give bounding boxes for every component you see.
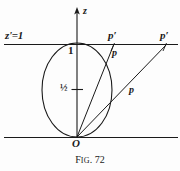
figure-72: z z'=1 1 ½ p′ p′ p p O FIG. 72 <box>0 0 180 171</box>
figure-caption: FIG. 72 <box>0 154 180 165</box>
ray-inner <box>77 44 114 137</box>
p-prime-inner-label: p′ <box>108 30 117 41</box>
unit-tick-label: 1 <box>68 45 74 56</box>
figure-drawing <box>0 0 180 171</box>
z-prime-equals-one-label: z'=1 <box>5 30 23 41</box>
p-inner-label: p <box>112 48 117 58</box>
p-outer-label: p <box>129 85 134 95</box>
z-axis-label: z <box>83 6 87 16</box>
half-tick-label: ½ <box>60 83 68 93</box>
ray-outer <box>77 44 167 137</box>
caption-number: . 72 <box>90 154 105 165</box>
origin-label: O <box>72 138 80 149</box>
caption-smallcaps: IG <box>81 156 90 165</box>
p-prime-outer-label: p′ <box>160 30 169 41</box>
